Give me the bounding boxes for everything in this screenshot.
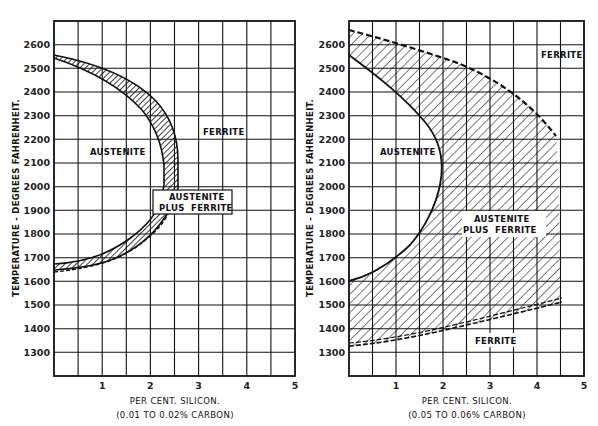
right-label-mix-2: PLUS FERRITE: [463, 225, 537, 235]
svg-text:2: 2: [147, 380, 154, 391]
svg-text:1: 1: [99, 380, 106, 391]
right-label-austenite: AUSTENITE: [380, 147, 436, 157]
right-x-ticks: 1 2 3 4 5: [393, 380, 588, 391]
left-x-axis-subtitle: (0.01 TO 0.02% CARBON): [116, 410, 234, 420]
svg-text:2000: 2000: [319, 181, 346, 192]
svg-text:1900: 1900: [319, 205, 346, 216]
left-label-mix-1: AUSTENITE: [169, 192, 225, 202]
svg-text:1500: 1500: [319, 299, 346, 310]
svg-text:1800: 1800: [319, 228, 346, 239]
svg-text:1: 1: [393, 380, 400, 391]
svg-text:1400: 1400: [24, 323, 51, 334]
svg-text:3: 3: [487, 380, 494, 391]
svg-text:2400: 2400: [319, 86, 346, 97]
svg-text:1300: 1300: [319, 347, 346, 358]
left-y-ticks: 2600 2500 2400 2300 2200 2100 2000 1900 …: [24, 39, 51, 358]
svg-text:1500: 1500: [24, 299, 51, 310]
svg-text:4: 4: [243, 380, 250, 391]
left-y-axis-label: TEMPERATURE - DEGREES FAHRENHEIT.: [11, 99, 21, 297]
right-x-axis-label: PER CENT. SILICON.: [422, 396, 512, 406]
svg-text:2400: 2400: [24, 86, 51, 97]
svg-text:1400: 1400: [319, 323, 346, 334]
svg-text:1700: 1700: [319, 252, 346, 263]
svg-text:2500: 2500: [24, 63, 51, 74]
svg-text:2100: 2100: [319, 157, 346, 168]
svg-text:2: 2: [440, 380, 447, 391]
svg-text:1800: 1800: [24, 228, 51, 239]
left-x-axis-label: PER CENT. SILICON.: [130, 396, 220, 406]
svg-text:2200: 2200: [319, 134, 346, 145]
svg-text:4: 4: [534, 380, 541, 391]
right-label-ferrite-bottom: FERRITE: [475, 336, 517, 346]
right-chart: FERRITE AUSTENITE AUSTENITE PLUS FERRITE…: [305, 21, 587, 420]
right-x-axis-subtitle: (0.05 TO 0.06% CARBON): [408, 410, 526, 420]
svg-text:2300: 2300: [24, 110, 51, 121]
right-y-ticks: 2600 2500 2400 2300 2200 2100 2000 1900 …: [319, 39, 346, 358]
left-chart: AUSTENITE FERRITE AUSTENITE PLUS FERRITE…: [11, 21, 298, 420]
svg-text:1600: 1600: [24, 276, 51, 287]
svg-text:2200: 2200: [24, 134, 51, 145]
right-y-axis-label: TEMPERATURE - DEGREES FAHRENHEIT.: [305, 99, 315, 297]
phase-diagrams: AUSTENITE FERRITE AUSTENITE PLUS FERRITE…: [0, 0, 598, 426]
svg-text:2100: 2100: [24, 157, 51, 168]
svg-text:2600: 2600: [24, 39, 51, 50]
svg-text:2000: 2000: [24, 181, 51, 192]
svg-text:1300: 1300: [24, 347, 51, 358]
svg-text:2600: 2600: [319, 39, 346, 50]
right-label-mix-1: AUSTENITE: [474, 214, 530, 224]
svg-text:1600: 1600: [319, 276, 346, 287]
svg-text:1900: 1900: [24, 205, 51, 216]
svg-text:2300: 2300: [319, 110, 346, 121]
left-label-austenite: AUSTENITE: [90, 147, 146, 157]
svg-text:3: 3: [195, 380, 202, 391]
left-label-mix-2: PLUS FERRITE: [159, 203, 233, 213]
left-x-ticks: 1 2 3 4 5: [99, 380, 298, 391]
right-label-ferrite-top: FERRITE: [541, 50, 583, 60]
svg-text:5: 5: [292, 380, 299, 391]
right-two-phase-region: [349, 30, 560, 346]
left-label-ferrite: FERRITE: [203, 127, 245, 137]
svg-text:5: 5: [581, 380, 588, 391]
svg-text:2500: 2500: [319, 63, 346, 74]
svg-text:1700: 1700: [24, 252, 51, 263]
